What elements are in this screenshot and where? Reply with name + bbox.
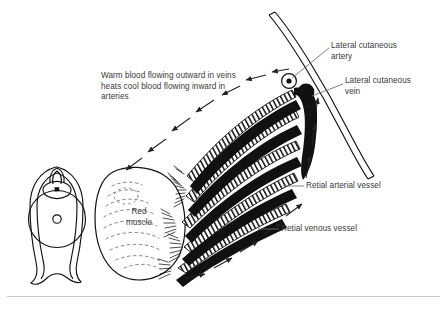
retial-vessel-bundle <box>176 74 317 287</box>
diagram-canvas: Warm blood flowing outward in veins heat… <box>0 0 447 309</box>
body-cross-section <box>29 167 86 284</box>
label-red-muscle: Red muscle <box>116 207 162 228</box>
label-lateral-cutaneous-vein: Lateral cutaneous vein <box>345 76 445 97</box>
label-lateral-cutaneous-artery: Lateral cutaneous artery <box>331 41 443 62</box>
bottom-divider <box>7 296 440 297</box>
label-retial-venous-vessel: Retial venous vessel <box>281 224 401 235</box>
label-retial-arterial-vessel: Retial arterial vessel <box>306 181 426 192</box>
annotation-text: Warm blood flowing outward in veins heat… <box>101 71 236 103</box>
